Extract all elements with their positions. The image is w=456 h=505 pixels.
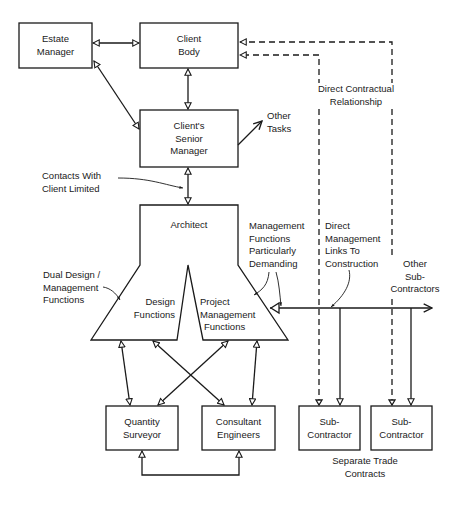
dual-design-annotation: Dual Design / Management Functions [43,269,100,307]
senior-manager-line2: Senior [140,133,238,146]
other-tasks-line2: Tasks [267,123,291,136]
estate-manager-line2: Manager [19,46,92,59]
quantity-surveyor-line2: Surveyor [106,429,178,442]
dual-design-line1: Dual Design / [43,269,100,282]
design-functions-label: Design Functions [128,296,175,321]
pm-functions-label: Project Management Functions [200,296,255,334]
other-subcontractors-line2: Sub- [380,271,450,284]
senior-manager-label: Client's Senior Manager [140,120,238,158]
pm-functions-line1: Project [200,296,255,309]
design-functions-line1: Design [128,296,175,309]
consultant-engineers-label: Consultant Engineers [202,416,275,441]
design-functions-line2: Functions [128,309,175,322]
mgmt-demanding-line1: Management [249,220,304,233]
separate-trade-line1: Separate Trade [320,455,410,468]
mgmt-demanding-line3: Particularly [249,245,304,258]
client-body-label: Client Body [140,33,238,58]
subcontractor-1-label: Sub- Contractor [299,416,360,441]
direct-mgmt-links-annotation: Direct Management Links To Construction [325,220,380,270]
other-tasks-annotation: Other Tasks [267,110,291,135]
subcontractor-2-line2: Contractor [371,429,432,442]
direct-contractual-annotation: Direct Contractual Relationship [310,83,402,108]
dual-design-line2: Management [43,282,100,295]
subcontractor-2-line1: Sub- [371,416,432,429]
contacts-limited-line2: Client Limited [42,183,101,196]
architect-label: Architect [140,219,238,232]
direct-mgmt-links-line3: Links To [325,245,380,258]
client-body-line1: Client [140,33,238,46]
other-tasks-line1: Other [267,110,291,123]
client-body-line2: Body [140,46,238,59]
consultant-engineers-line1: Consultant [202,416,275,429]
senior-manager-line3: Manager [140,145,238,158]
pm-functions-line2: Management [200,309,255,322]
direct-mgmt-links-line1: Direct [325,220,380,233]
consultant-engineers-line2: Engineers [202,429,275,442]
dual-design-line3: Functions [43,294,100,307]
mgmt-demanding-line2: Functions [249,233,304,246]
contacts-limited-line1: Contacts With [42,170,101,183]
direct-contractual-line1: Direct Contractual [310,83,402,96]
mgmt-demanding-annotation: Management Functions Particularly Demand… [249,220,304,270]
senior-manager-line1: Client's [140,120,238,133]
other-subcontractors-line1: Other [380,258,450,271]
subcontractor-1-line1: Sub- [299,416,360,429]
direct-mgmt-links-line4: Construction [325,258,380,271]
mgmt-demanding-line4: Demanding [249,258,304,271]
other-subcontractors-line3: Contractors [380,283,450,296]
direct-mgmt-links-line2: Management [325,233,380,246]
quantity-surveyor-label: Quantity Surveyor [106,416,178,441]
quantity-surveyor-line1: Quantity [106,416,178,429]
contacts-limited-annotation: Contacts With Client Limited [42,170,101,195]
estate-manager-line1: Estate [19,33,92,46]
subcontractor-1-line2: Contractor [299,429,360,442]
separate-trade-annotation: Separate Trade Contracts [320,455,410,480]
other-subcontractors-annotation: Other Sub- Contractors [380,258,450,296]
pm-functions-line3: Functions [200,321,255,334]
direct-contractual-line2: Relationship [310,96,402,109]
separate-trade-line2: Contracts [320,468,410,481]
estate-manager-label: Estate Manager [19,33,92,58]
subcontractor-2-label: Sub- Contractor [371,416,432,441]
